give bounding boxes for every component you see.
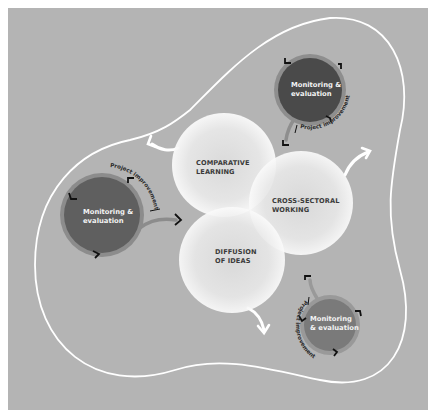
label-monitoring-evaluation: Monitoring & evaluation: [310, 315, 359, 332]
diagram-canvas: COMPARATIVE LEARNING CROSS-SECTORAL WORK…: [0, 0, 437, 416]
